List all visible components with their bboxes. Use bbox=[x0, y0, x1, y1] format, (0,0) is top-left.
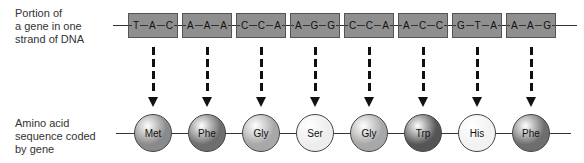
amino-acid-sphere: Phe bbox=[512, 114, 550, 152]
codon-box: AGG bbox=[290, 13, 340, 38]
codon-box: CCA bbox=[344, 13, 394, 38]
codon-box: TAC bbox=[128, 13, 178, 38]
amino-label-line-2: sequence coded bbox=[15, 130, 96, 143]
nucleotide-base: G bbox=[456, 20, 466, 31]
amino-acid-name: Ser bbox=[307, 128, 323, 139]
amino-acid-label: Amino acid sequence coded by gene bbox=[15, 117, 96, 156]
amino-acid-sphere: Gly bbox=[350, 114, 388, 152]
dashed-arrow-down-icon bbox=[529, 47, 533, 107]
nucleotide-base: C bbox=[348, 20, 357, 31]
codon-box: CCA bbox=[236, 13, 286, 38]
nucleotide-base: A bbox=[489, 20, 498, 31]
nucleotide-base: C bbox=[418, 20, 427, 31]
dashed-arrow-down-icon bbox=[421, 47, 425, 107]
dna-strand-label: Portion of a gene in one strand of DNA bbox=[15, 7, 84, 46]
nucleotide-base: A bbox=[510, 20, 519, 31]
nucleotide-base: T bbox=[474, 20, 482, 31]
amino-acid-name: Trp bbox=[416, 128, 431, 139]
dna-label-line-1: Portion of bbox=[15, 7, 84, 20]
amino-acid-sphere: Gly bbox=[242, 114, 280, 152]
amino-acid-name: Phe bbox=[198, 128, 216, 139]
dashed-arrow-down-icon bbox=[475, 47, 479, 107]
dashed-arrow-down-icon bbox=[205, 47, 209, 107]
nucleotide-base: A bbox=[186, 20, 195, 31]
amino-acid-name: Gly bbox=[254, 128, 269, 139]
nucleotide-base: A bbox=[219, 20, 228, 31]
nucleotide-base: A bbox=[402, 20, 411, 31]
amino-acid-sphere: Ser bbox=[296, 114, 334, 152]
nucleotide-base: A bbox=[148, 20, 157, 31]
codon-box: AAG bbox=[506, 13, 556, 38]
nucleotide-base: T bbox=[132, 20, 140, 31]
nucleotide-base: C bbox=[165, 20, 174, 31]
codon-box: ACC bbox=[398, 13, 448, 38]
dashed-arrow-down-icon bbox=[313, 47, 317, 107]
nucleotide-base: A bbox=[203, 20, 212, 31]
dashed-arrow-down-icon bbox=[259, 47, 263, 107]
nucleotide-base: G bbox=[310, 20, 320, 31]
nucleotide-base: G bbox=[542, 20, 552, 31]
nucleotide-base: A bbox=[273, 20, 282, 31]
nucleotide-base: A bbox=[381, 20, 390, 31]
amino-acid-name: Met bbox=[145, 128, 162, 139]
amino-acid-sphere: Met bbox=[134, 114, 172, 152]
nucleotide-base: C bbox=[365, 20, 374, 31]
nucleotide-base: G bbox=[326, 20, 336, 31]
dashed-arrow-down-icon bbox=[151, 47, 155, 107]
amino-acid-sphere: His bbox=[458, 114, 496, 152]
nucleotide-base: A bbox=[294, 20, 303, 31]
amino-acid-name: His bbox=[470, 128, 484, 139]
codon-box: GTA bbox=[452, 13, 502, 38]
amino-acid-name: Gly bbox=[362, 128, 377, 139]
dna-label-line-3: strand of DNA bbox=[15, 33, 84, 46]
amino-acid-name: Phe bbox=[522, 128, 540, 139]
amino-acid-sphere: Trp bbox=[404, 114, 442, 152]
nucleotide-base: C bbox=[435, 20, 444, 31]
amino-acid-sphere: Phe bbox=[188, 114, 226, 152]
dna-label-line-2: a gene in one bbox=[15, 20, 84, 33]
peptide-backbone-line bbox=[116, 133, 571, 134]
amino-label-line-1: Amino acid bbox=[15, 117, 96, 130]
amino-label-line-3: by gene bbox=[15, 143, 96, 156]
nucleotide-base: C bbox=[257, 20, 266, 31]
nucleotide-base: C bbox=[240, 20, 249, 31]
nucleotide-base: A bbox=[526, 20, 535, 31]
dashed-arrow-down-icon bbox=[367, 47, 371, 107]
codon-box: AAA bbox=[182, 13, 232, 38]
